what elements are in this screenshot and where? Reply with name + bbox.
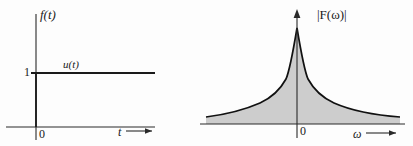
right-arrow-icon — [145, 128, 152, 134]
time-domain-plot: f(t) 1 u(t) 0 t — [0, 0, 207, 146]
time-origin-label: 0 — [39, 128, 45, 140]
frequency-y-axis-label: |F(ω)| — [317, 8, 347, 21]
frequency-x-axis-label: ω — [353, 128, 361, 140]
right-arrow-icon — [389, 130, 396, 136]
frequency-domain-svg — [200, 0, 413, 146]
up-arrow-icon — [294, 9, 301, 18]
frequency-origin-label: 0 — [300, 125, 306, 137]
time-y-tick-label: 1 — [24, 66, 30, 78]
spectrum-fill-area — [206, 28, 400, 124]
time-x-axis-label: t — [118, 126, 121, 138]
unit-step-curve-label: u(t) — [63, 59, 79, 70]
time-domain-svg — [0, 0, 207, 146]
time-y-axis-label: f(t) — [40, 8, 56, 21]
figure-container: f(t) 1 u(t) 0 t |F(ω)| 0 ω — [0, 0, 413, 146]
frequency-domain-plot: |F(ω)| 0 ω — [200, 0, 413, 146]
